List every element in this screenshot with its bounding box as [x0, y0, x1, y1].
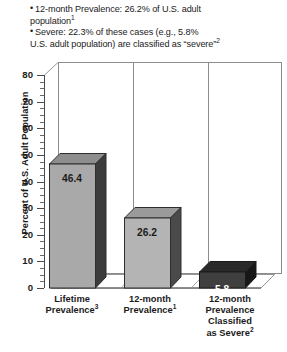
- footnote-marker: 2: [216, 37, 220, 44]
- y-tick-70: [37, 102, 44, 103]
- y-tick-minor: [40, 248, 45, 249]
- back-wall-divider-2: [208, 62, 209, 274]
- y-tick-minor: [40, 122, 45, 123]
- plot-area: 80 70 60 50 40 30 20 10 0: [0, 62, 287, 352]
- y-tick-minor: [40, 168, 45, 169]
- y-tick-minor: [40, 241, 45, 242]
- y-tick-label-50: 50: [3, 149, 33, 160]
- x-label-line: 12-month: [189, 294, 271, 305]
- footnote-marker: 1: [71, 14, 75, 21]
- bar-12-month-prevalence-severe[interactable]: 5.8: [199, 272, 245, 288]
- y-tick-minor: [40, 115, 45, 116]
- bullet-icon: •: [30, 3, 33, 15]
- note-line-2: population1: [30, 16, 282, 28]
- x-axis-label-lifetime-prevalence: Lifetime Prevalence3: [33, 294, 111, 316]
- y-tick-minor: [40, 175, 45, 176]
- y-tick-20: [37, 235, 44, 236]
- y-tick-label-30: 30: [3, 202, 33, 213]
- y-tick-minor: [40, 95, 45, 96]
- y-tick-0: [37, 288, 44, 289]
- y-tick-minor: [40, 215, 45, 216]
- x-label-line: as Severe2: [189, 328, 271, 339]
- y-tick-10: [37, 261, 44, 262]
- y-axis-line: [44, 75, 45, 288]
- y-tick-minor: [40, 108, 45, 109]
- x-label-line: Prevalence3: [33, 305, 111, 316]
- y-tick-minor: [40, 88, 45, 89]
- bar-12-month-prevalence[interactable]: 26.2: [124, 218, 170, 288]
- y-tick-label-80: 80: [3, 69, 33, 80]
- note-line-4: U.S. adult population) are classified as…: [30, 39, 282, 51]
- y-tick-minor: [40, 82, 45, 83]
- y-tick-minor: [40, 148, 45, 149]
- x-axis-label-12-month-prevalence-severe: 12-month Prevalence Classified as Severe…: [189, 294, 271, 339]
- y-tick-minor: [40, 275, 45, 276]
- bar-value-label: 46.4: [49, 173, 95, 184]
- y-tick-30: [37, 208, 44, 209]
- bar-lifetime-prevalence[interactable]: 46.4: [49, 164, 95, 288]
- y-tick-60: [37, 128, 44, 129]
- bar-side-face: [96, 154, 107, 289]
- y-tick-minor: [40, 268, 45, 269]
- x-label-line: Prevalence1: [111, 305, 189, 316]
- note-text: Severe: 22.3% of these cases (e.g., 5.8%: [35, 27, 198, 37]
- bar-chart: Percent of U.S. Adult Population 80 70 6…: [0, 62, 287, 352]
- footnote-marker: 2: [250, 326, 254, 333]
- y-tick-minor: [40, 135, 45, 136]
- footnote-marker: 1: [173, 303, 177, 310]
- y-tick-label-20: 20: [3, 229, 33, 240]
- x-axis-label-12-month-prevalence: 12-month Prevalence1: [111, 294, 189, 316]
- x-label-line: 12-month: [111, 294, 189, 305]
- note-line-3: •Severe: 22.3% of these cases (e.g., 5.8…: [30, 27, 282, 39]
- y-tick-minor: [40, 202, 45, 203]
- note-line-1: •12-month Prevalence: 26.2% of U.S. adul…: [30, 4, 282, 16]
- y-tick-80: [37, 75, 44, 76]
- x-label-line: Lifetime: [33, 294, 111, 305]
- y-tick-minor: [40, 142, 45, 143]
- y-tick-label-0: 0: [3, 282, 33, 293]
- x-label-text: Prevalence: [124, 305, 173, 315]
- bar-3d-shape: [124, 207, 184, 289]
- y-tick-minor: [40, 162, 45, 163]
- bar-value-label: 26.2: [124, 227, 170, 238]
- y-tick-label-40: 40: [3, 176, 33, 187]
- y-tick-minor: [40, 281, 45, 282]
- footnote-marker: 3: [95, 303, 99, 310]
- bar-side-face: [171, 208, 182, 289]
- note-text: 12-month Prevalence: 26.2% of U.S. adult: [35, 4, 201, 14]
- y-tick-40: [37, 182, 44, 183]
- x-label-line: Classified: [189, 316, 271, 327]
- x-label-text: as Severe: [206, 328, 249, 338]
- y-tick-minor: [40, 195, 45, 196]
- y-tick-label-10: 10: [3, 255, 33, 266]
- x-label-line: Prevalence: [189, 305, 271, 316]
- y-tick-label-60: 60: [3, 122, 33, 133]
- y-tick-minor: [40, 255, 45, 256]
- y-tick-label-70: 70: [3, 96, 33, 107]
- header-notes: •12-month Prevalence: 26.2% of U.S. adul…: [30, 4, 282, 50]
- y-tick-minor: [40, 222, 45, 223]
- y-tick-minor: [40, 228, 45, 229]
- x-label-text: Prevalence: [46, 305, 95, 315]
- y-tick-50: [37, 155, 44, 156]
- note-text: population: [30, 16, 71, 26]
- note-text: U.S. adult population) are classified as…: [30, 39, 216, 49]
- bullet-icon: •: [30, 26, 33, 38]
- y-tick-minor: [40, 188, 45, 189]
- perspective-top-edge: [44, 62, 59, 76]
